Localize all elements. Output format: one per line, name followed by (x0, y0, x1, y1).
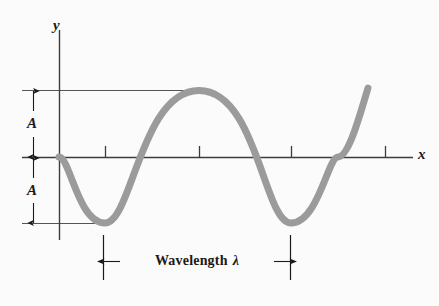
wavelength-label-text: Wavelength (155, 253, 228, 268)
wave-diagram: y x A A Wavelengthλ (0, 0, 439, 306)
y-axis-label: y (53, 18, 60, 33)
x-axis-label: x (418, 147, 426, 162)
amplitude-upper-label: A (27, 116, 37, 131)
lambda-symbol: λ (228, 253, 239, 268)
amplitude-lower-label: A (27, 183, 37, 198)
wavelength-label: Wavelengthλ (120, 252, 274, 270)
